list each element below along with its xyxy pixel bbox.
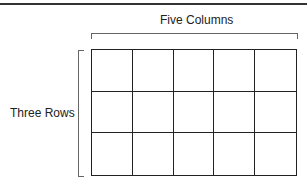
grid-cell	[92, 92, 133, 134]
grid-cell	[214, 50, 255, 92]
grid-cell	[214, 133, 255, 175]
grid-table	[91, 49, 297, 176]
grid-cell	[92, 50, 133, 92]
grid-cell	[92, 133, 133, 175]
grid-cell	[214, 92, 255, 134]
rows-label: Three Rows	[10, 106, 75, 120]
columns-bracket	[91, 33, 298, 39]
grid-cell	[133, 50, 174, 92]
grid-cell	[174, 133, 215, 175]
grid-cell	[133, 92, 174, 134]
grid-cell	[255, 92, 296, 134]
grid-cell	[174, 92, 215, 134]
grid-cell	[255, 133, 296, 175]
rows-bracket	[78, 50, 84, 177]
grid-cell	[255, 50, 296, 92]
grid-cell	[174, 50, 215, 92]
top-rule	[0, 3, 307, 5]
columns-label: Five Columns	[160, 13, 233, 27]
grid-cell	[133, 133, 174, 175]
